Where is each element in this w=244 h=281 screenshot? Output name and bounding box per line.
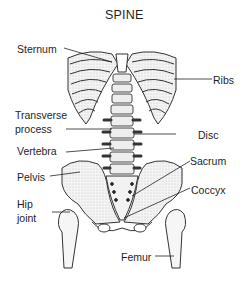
label-ribs: Ribs [213, 74, 234, 86]
spine-diagram: SPINE Sternum Ribs Transverse process Di… [0, 0, 244, 281]
label-transverse-process-1: Transverse [15, 109, 67, 121]
label-sacrum: Sacrum [190, 155, 226, 167]
label-pelvis: Pelvis [17, 171, 45, 183]
label-hip-joint-1: Hip [17, 198, 33, 210]
label-vertebra: Vertebra [17, 145, 57, 157]
label-disc: Disc [198, 129, 218, 141]
diagram-title: SPINE [105, 8, 144, 22]
label-femur: Femur [121, 251, 151, 263]
label-sternum: Sternum [17, 43, 57, 55]
label-transverse-process-2: process [15, 123, 52, 135]
vertebral-column [103, 74, 141, 174]
label-coccyx: Coccyx [191, 184, 225, 196]
label-hip-joint-2: joint [17, 212, 36, 224]
